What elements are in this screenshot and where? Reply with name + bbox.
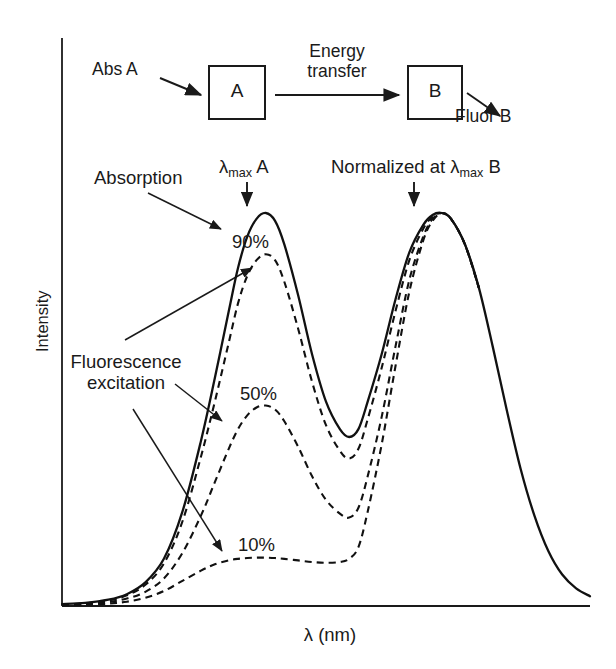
curve-absorption — [62, 213, 590, 604]
absorption-pointer-arrow — [148, 193, 221, 229]
fluorescence-excitation-label: Fluorescence excitation — [58, 352, 194, 393]
abs-a-arrow — [160, 78, 201, 95]
lambda-max-a-prefix: λ — [219, 156, 228, 177]
fluorescence-line2: excitation — [87, 372, 165, 393]
lambda-max-a-suffix: A — [252, 156, 268, 177]
normalized-sub: max — [460, 166, 484, 180]
normalized-suffix: B — [483, 156, 500, 177]
fluorescence-line1: Fluorescence — [70, 351, 181, 372]
fluor-b-label: Fluor B — [455, 107, 511, 127]
absorption-label: Absorption — [94, 168, 182, 189]
energy-transfer-label: Energy transfer — [276, 42, 398, 81]
label-10-percent: 10% — [238, 535, 275, 556]
box-a-label: A — [209, 80, 265, 102]
normalized-label: Normalized at λmax B — [331, 157, 501, 180]
spectra-plot — [0, 0, 616, 669]
spectra-curves — [62, 213, 590, 605]
energy-transfer-figure: Abs A A B Energy transfer Fluor B Absorp… — [0, 0, 616, 669]
abs-a-label: Abs A — [92, 60, 138, 80]
x-axis-title: λ (nm) — [205, 625, 455, 646]
fluorescence-pointer-90-arrow — [125, 268, 252, 340]
box-b-label: B — [408, 80, 462, 102]
energy-transfer-line2: transfer — [307, 61, 366, 81]
energy-transfer-line1: Energy — [309, 41, 364, 61]
y-axis-title: Intensity — [33, 261, 51, 381]
label-90-percent: 90% — [232, 232, 269, 253]
normalized-prefix: Normalized at λ — [331, 156, 460, 177]
lambda-max-a-sub: max — [228, 166, 252, 180]
lambda-max-a-label: λmax A — [219, 157, 268, 180]
label-50-percent: 50% — [240, 384, 277, 405]
